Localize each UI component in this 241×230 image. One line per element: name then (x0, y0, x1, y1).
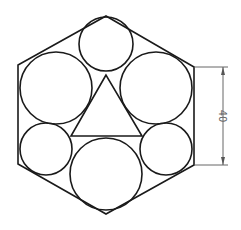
center-triangle (71, 75, 142, 136)
dimension-annotation: 40 (194, 67, 228, 165)
upper-right-large-circle (120, 52, 192, 124)
top-small-circle (79, 17, 133, 71)
lower-left-small-circle (20, 123, 72, 175)
dimension-label: 40 (217, 110, 228, 123)
arrowhead-up-icon (221, 67, 225, 75)
hexagon-outline (18, 16, 194, 214)
lower-right-small-circle (140, 123, 192, 175)
upper-left-large-circle (20, 52, 92, 124)
arrowhead-down-icon (221, 157, 225, 165)
bottom-large-circle (70, 138, 142, 210)
geometry-drawing: 40 (0, 0, 241, 230)
